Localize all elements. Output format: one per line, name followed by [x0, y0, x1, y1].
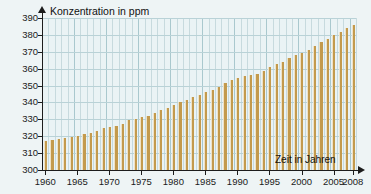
bar [76, 136, 79, 170]
co2-concentration-chart: 300310320330340350360370380390 Konzentra… [0, 0, 371, 194]
bar [243, 76, 246, 170]
bar [217, 87, 220, 170]
bar [82, 134, 85, 170]
y-axis-tick-label: 370 [4, 47, 38, 56]
bar [140, 117, 143, 170]
bar [300, 53, 303, 170]
bar [63, 138, 66, 170]
x-axis-arrow-icon [358, 166, 365, 174]
x-axis-tick [173, 170, 174, 175]
bar [262, 71, 265, 170]
bar [95, 131, 98, 170]
bar [294, 55, 297, 170]
bar [198, 95, 201, 170]
bar [134, 119, 137, 170]
y-axis-tick [38, 35, 43, 36]
x-axis-tick-label: 1990 [222, 177, 252, 187]
x-axis-tick [77, 170, 78, 175]
x-axis-tick-label: 1980 [158, 177, 188, 187]
x-axis-tick [353, 170, 354, 175]
bar [146, 116, 149, 170]
y-axis-tick [38, 18, 43, 19]
y-axis-tick-label: 320 [4, 131, 38, 140]
x-axis-tick [334, 170, 335, 175]
bar [44, 141, 47, 170]
bar [153, 113, 156, 170]
x-axis-tick-label: 2008 [338, 177, 368, 187]
y-axis-tick-label: 350 [4, 81, 38, 90]
bar [102, 128, 105, 170]
bar [223, 83, 226, 170]
x-axis-tick [141, 170, 142, 175]
bar [211, 90, 214, 170]
x-axis-title: Zeit in Jahren [275, 154, 336, 165]
bar [57, 139, 60, 170]
bar [236, 78, 239, 170]
y-axis-tick [38, 102, 43, 103]
bar [313, 46, 316, 170]
bar [108, 127, 111, 170]
y-axis-tick-label: 380 [4, 30, 38, 39]
y-axis-tick-label: 310 [4, 148, 38, 157]
x-axis-tick-label: 1995 [254, 177, 284, 187]
bar [185, 100, 188, 170]
y-axis-tick [38, 170, 43, 171]
bar [114, 126, 117, 170]
bar [268, 67, 271, 170]
x-axis-tick [109, 170, 110, 175]
bar [121, 124, 124, 170]
y-axis-tick-label: 330 [4, 114, 38, 123]
bar [332, 35, 335, 170]
y-axis-tick-label: 390 [4, 13, 38, 22]
x-axis-tick-label: 1965 [62, 177, 92, 187]
y-axis-labels: 300310320330340350360370380390 [0, 0, 38, 194]
y-axis-tick [38, 52, 43, 53]
y-axis-tick-label: 360 [4, 64, 38, 73]
bar [339, 32, 342, 170]
bar [255, 74, 258, 170]
bar [191, 97, 194, 170]
x-axis-tick-label: 1960 [30, 177, 60, 187]
bar [178, 102, 181, 170]
bar [249, 75, 252, 170]
x-axis-tick-label: 2000 [287, 177, 317, 187]
y-axis-tick-label: 340 [4, 97, 38, 106]
bar [319, 42, 322, 170]
bar [159, 110, 162, 170]
x-axis-tick [45, 170, 46, 175]
y-axis-tick-label: 300 [4, 165, 38, 174]
x-axis-tick [205, 170, 206, 175]
bar [166, 108, 169, 170]
bar [172, 105, 175, 170]
bar [204, 92, 207, 170]
bar [127, 120, 130, 170]
y-axis-tick [38, 153, 43, 154]
bar [89, 133, 92, 170]
y-axis-tick [38, 119, 43, 120]
bar-series [42, 18, 356, 170]
x-axis-line [42, 170, 360, 171]
x-axis-tick [302, 170, 303, 175]
bar [326, 39, 329, 170]
bar [230, 80, 233, 170]
gridline-vertical [356, 18, 357, 170]
y-axis-tick [38, 136, 43, 137]
bar [307, 50, 310, 170]
bar [352, 25, 355, 170]
bar [345, 28, 348, 170]
x-axis-tick-label: 1975 [126, 177, 156, 187]
y-axis-title: Konzentration in ppm [50, 5, 149, 17]
x-axis-tick-label: 1985 [190, 177, 220, 187]
x-axis-tick [269, 170, 270, 175]
y-axis-tick [38, 86, 43, 87]
plot-area [42, 18, 356, 170]
bar [70, 137, 73, 170]
x-axis-tick-label: 1970 [94, 177, 124, 187]
x-axis-tick [237, 170, 238, 175]
y-axis-tick [38, 69, 43, 70]
bar [50, 140, 53, 170]
y-axis-arrow-icon [38, 6, 46, 13]
